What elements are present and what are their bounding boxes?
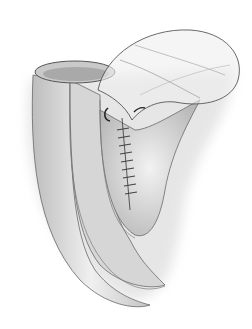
- intestine-illustration: [0, 0, 252, 329]
- illustration-canvas: [0, 0, 252, 329]
- bowel-lumen-inner: [43, 67, 109, 81]
